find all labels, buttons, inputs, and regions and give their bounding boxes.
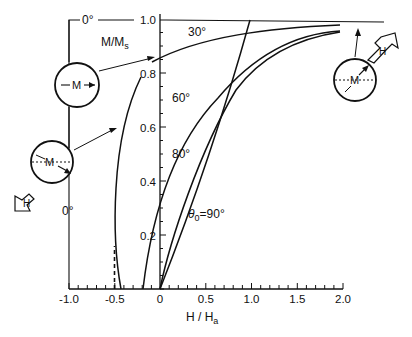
magnetization-chart: 1.0 0.8 0.6 0.4 0.2 -1.0 -0.5 0 0.5 1.0 … — [0, 0, 412, 337]
label-30deg: 30° — [188, 25, 206, 39]
y-axis-title: M/Ms — [101, 35, 129, 51]
magnetization-label: M — [72, 79, 81, 91]
arrow-head-icon — [109, 128, 117, 133]
x-tick--1.0: -1.0 — [59, 293, 79, 305]
y-tick-0.4: 0.4 — [140, 176, 157, 188]
axes — [69, 14, 343, 289]
inset-magnet-tilted: M H — [15, 128, 117, 211]
y-tick-1.0: 1.0 — [140, 14, 156, 26]
field-label: H — [379, 46, 386, 57]
y-tick-labels: 1.0 0.8 0.6 0.4 0.2 — [140, 14, 157, 242]
label-0deg-top: 0° — [82, 13, 94, 27]
label-80deg: 80° — [172, 147, 190, 161]
x-tick-labels: -1.0 -0.5 0 0.5 1.0 1.5 2.0 — [59, 293, 351, 305]
y-tick-0.6: 0.6 — [140, 122, 156, 134]
magnetization-label: M — [45, 156, 54, 168]
x-tick--0.5: -0.5 — [105, 293, 125, 305]
x-tick-1.5: 1.5 — [289, 293, 305, 305]
y-tick-0.2: 0.2 — [140, 230, 156, 242]
x-tick-0: 0 — [157, 293, 163, 305]
x-tick-1.0: 1.0 — [244, 293, 260, 305]
field-label: H — [23, 198, 30, 209]
magnetization-label: M — [350, 74, 359, 86]
x-tick-0.5: 0.5 — [198, 293, 214, 305]
y-tick-0.8: 0.8 — [140, 68, 156, 80]
series-0deg: 0° 0° — [62, 13, 384, 289]
label-60deg: 60° — [172, 91, 190, 105]
inset-magnet-saturated: M H — [334, 28, 398, 101]
label-90deg: θ0=90° — [188, 207, 225, 223]
label-0deg-left: 0° — [62, 204, 74, 218]
x-axis-title: H / Ha — [186, 310, 218, 326]
x-tick-2.0: 2.0 — [335, 293, 351, 305]
series-80deg: 80° — [160, 32, 340, 289]
arrow-head-icon — [355, 28, 361, 36]
